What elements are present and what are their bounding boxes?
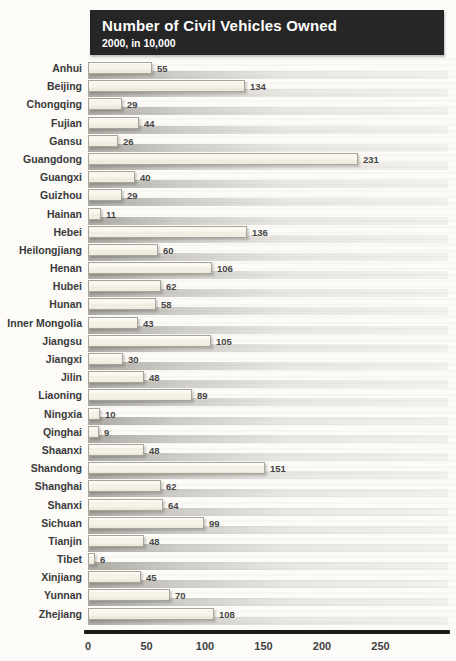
- bar-label: Heilongjiang: [0, 244, 88, 262]
- bar-track-shadow: [88, 217, 448, 225]
- bar: [88, 499, 163, 511]
- bar-label: Guangdong: [0, 153, 88, 171]
- bar-value: 136: [252, 227, 268, 239]
- bar-label: Xinjiang: [0, 571, 88, 589]
- bar-label: Shanghai: [0, 480, 88, 498]
- bar-label: Chongqing: [0, 98, 88, 116]
- bar-row: Guizhou29: [0, 189, 450, 207]
- bar-value: 9: [104, 427, 109, 439]
- bar-value: 30: [128, 354, 139, 366]
- bar-label: Henan: [0, 262, 88, 280]
- bar: [88, 426, 99, 438]
- bar-row: Guangdong231: [0, 153, 450, 171]
- bar: [88, 608, 214, 620]
- bar-track-shadow: [88, 107, 448, 115]
- chart-figure: Number of Civil Vehicles Owned 2000, in …: [0, 0, 456, 661]
- bar-track-shadow: [88, 435, 448, 443]
- bar-chart-cell: 29: [88, 189, 450, 207]
- bar: [88, 335, 211, 347]
- bar-row: Anhui55: [0, 62, 450, 80]
- bar-row: Jilin48: [0, 371, 450, 389]
- bar-label: Tibet: [0, 553, 88, 571]
- bar-label: Hunan: [0, 298, 88, 316]
- bar-chart-cell: 40: [88, 171, 450, 189]
- bar-chart-cell: 106: [88, 262, 450, 280]
- bar-value: 48: [149, 536, 160, 548]
- bar-row: Jiangxi30: [0, 353, 450, 371]
- bar-chart-cell: 43: [88, 317, 450, 335]
- bar: [88, 280, 161, 292]
- bar-label: Jilin: [0, 371, 88, 389]
- x-axis-line: [84, 630, 450, 634]
- bar: [88, 226, 247, 238]
- bar-label: Zhejiang: [0, 608, 88, 626]
- bar-row: Qinghai9: [0, 426, 450, 444]
- bar-value: 108: [219, 609, 235, 621]
- bar-label: Yunnan: [0, 589, 88, 607]
- bar-chart-cell: 231: [88, 153, 450, 171]
- bar-chart-cell: 136: [88, 226, 450, 244]
- bar-value: 134: [250, 81, 266, 93]
- bar-value: 6: [100, 554, 105, 566]
- bar-chart-cell: 9: [88, 426, 450, 444]
- bar-row: Hunan58: [0, 298, 450, 316]
- bar-value: 62: [166, 281, 177, 293]
- bar-label: Shaanxi: [0, 444, 88, 462]
- bar-label: Qinghai: [0, 426, 88, 444]
- bar-track-shadow: [88, 144, 448, 152]
- bar-value: 10: [105, 409, 116, 421]
- bar: [88, 480, 161, 492]
- bar-chart-cell: 99: [88, 517, 450, 535]
- bar: [88, 171, 135, 183]
- bar-chart-cell: 60: [88, 244, 450, 262]
- bar-track-shadow: [88, 562, 448, 570]
- bar-row: Hainan11: [0, 208, 450, 226]
- bar-row: Fujian44: [0, 117, 450, 135]
- bar-rows: Anhui55Beijing134Chongqing29Fujian44Gans…: [0, 62, 450, 626]
- x-axis-tick-label: 250: [371, 640, 389, 652]
- bar-chart-cell: 62: [88, 280, 450, 298]
- bar-row: Xinjiang45: [0, 571, 450, 589]
- bar-row: Shanxi64: [0, 499, 450, 517]
- bar-chart-cell: 11: [88, 208, 450, 226]
- bar-value: 60: [163, 245, 174, 257]
- bar-track-shadow: [88, 580, 448, 588]
- bar-row: Henan106: [0, 262, 450, 280]
- bar-label: Jiangxi: [0, 353, 88, 371]
- bar-row: Sichuan99: [0, 517, 450, 535]
- bar-row: Gansu26: [0, 135, 450, 153]
- bar-track-shadow: [88, 126, 448, 134]
- bar-chart-cell: 108: [88, 608, 450, 626]
- bar-chart-cell: 134: [88, 80, 450, 98]
- bar-track-shadow: [88, 326, 448, 334]
- bar-value: 70: [175, 590, 186, 602]
- bar-row: Beijing134: [0, 80, 450, 98]
- bar-value: 99: [209, 518, 220, 530]
- x-axis-ticks: 050100150200250: [88, 638, 448, 656]
- bar-value: 26: [123, 136, 134, 148]
- bar-chart-cell: 105: [88, 335, 450, 353]
- bar-chart-cell: 10: [88, 408, 450, 426]
- bar-value: 105: [216, 336, 232, 348]
- bar-label: Guizhou: [0, 189, 88, 207]
- bar-row: Ningxia10: [0, 408, 450, 426]
- bar-row: Tianjin48: [0, 535, 450, 553]
- bar-value: 64: [168, 500, 179, 512]
- bar-chart-cell: 48: [88, 444, 450, 462]
- chart-title-band: Number of Civil Vehicles Owned 2000, in …: [90, 10, 444, 55]
- bar: [88, 298, 156, 310]
- bar-value: 48: [149, 445, 160, 457]
- bar: [88, 262, 212, 274]
- bar-chart-cell: 62: [88, 480, 450, 498]
- bar-label: Inner Mongolia: [0, 317, 88, 335]
- bar-label: Guangxi: [0, 171, 88, 189]
- chart-subtitle: 2000, in 10,000: [102, 37, 444, 50]
- bar-label: Anhui: [0, 62, 88, 80]
- x-axis-tick-label: 50: [140, 640, 152, 652]
- bar-value: 62: [166, 481, 177, 493]
- bar: [88, 371, 144, 383]
- bar-chart-cell: 44: [88, 117, 450, 135]
- bar-chart-cell: 48: [88, 371, 450, 389]
- bar: [88, 80, 245, 92]
- bar: [88, 589, 170, 601]
